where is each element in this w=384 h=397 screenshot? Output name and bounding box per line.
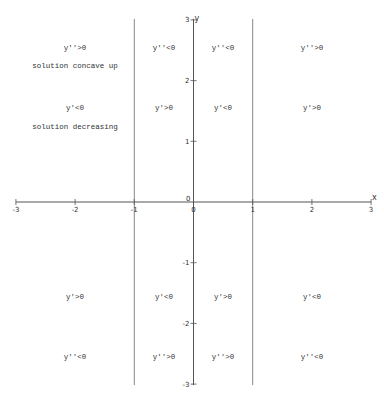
x-axis-ticks: -3-2-10123 bbox=[12, 199, 373, 214]
x-tick-label: -2 bbox=[72, 206, 79, 214]
region-label: y'<0 bbox=[155, 293, 174, 301]
region-label: y'<0 bbox=[214, 104, 233, 112]
y-tick-label: -2 bbox=[183, 320, 190, 328]
x-tick-label: 1 bbox=[250, 206, 254, 214]
x-tick-label: 2 bbox=[310, 206, 314, 214]
region-label: y''>0 bbox=[301, 44, 324, 52]
region-label: solution decreasing bbox=[32, 123, 118, 131]
region-label: y''<0 bbox=[301, 353, 324, 361]
y-tick-label: -1 bbox=[183, 259, 190, 267]
sign-chart-plot: -3-2-10123 3210-1-2-3 y''>0solution conc… bbox=[0, 0, 384, 397]
y-tick-label: 1 bbox=[185, 138, 189, 146]
region-label: solution concave up bbox=[32, 62, 118, 70]
region-label: y'>0 bbox=[214, 293, 233, 301]
x-tick-label: 3 bbox=[369, 206, 373, 214]
region-label: y''<0 bbox=[212, 44, 235, 52]
y-tick-label: 2 bbox=[185, 77, 189, 85]
region-label: y''>0 bbox=[212, 353, 235, 361]
region-label: y'>0 bbox=[155, 104, 174, 112]
region-label: y''>0 bbox=[153, 353, 176, 361]
region-label: y''<0 bbox=[64, 353, 87, 361]
x-tick-label: -1 bbox=[131, 206, 138, 214]
x-tick-label: -3 bbox=[12, 206, 19, 214]
x-axis-label: x bbox=[372, 193, 377, 202]
region-label: y'>0 bbox=[303, 104, 322, 112]
y-tick-label: 3 bbox=[185, 16, 189, 24]
region-label: y''<0 bbox=[153, 44, 176, 52]
region-label: y'<0 bbox=[303, 293, 322, 301]
y-tick-label: -3 bbox=[183, 381, 190, 389]
y-axis-label: y bbox=[195, 14, 200, 23]
region-label: y'>0 bbox=[66, 293, 85, 301]
region-label: y''>0 bbox=[64, 44, 87, 52]
y-tick-label: 0 bbox=[186, 195, 190, 203]
region-label: y'<0 bbox=[66, 104, 85, 112]
x-tick-label: 0 bbox=[191, 206, 195, 214]
